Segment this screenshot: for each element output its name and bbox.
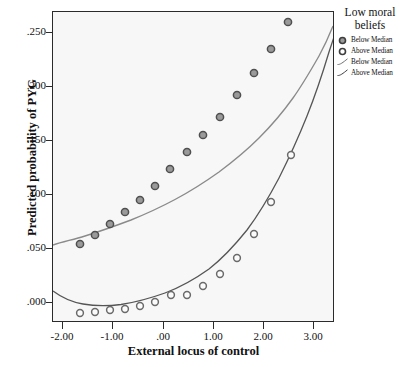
x-axis-title: External locus of control (52, 344, 335, 359)
legend-label: Above Median (351, 69, 393, 77)
x-tick-label: 3.00 (293, 330, 333, 342)
x-tick-mark (62, 322, 63, 329)
y-tick-label: .000 (16, 295, 46, 307)
legend-title: Low moral beliefs (337, 6, 403, 32)
legend-item-above-median-marker[interactable]: Above Median (337, 46, 403, 56)
legend-label: Below Median (351, 36, 392, 44)
x-tick-label: -1.00 (92, 330, 132, 342)
curve-above-median (53, 34, 334, 306)
legend-item-below-median-marker[interactable]: Below Median (337, 35, 403, 45)
legend-label: Below Median (351, 58, 392, 66)
y-tick-label: .050 (16, 241, 46, 253)
curve-line-icon (337, 57, 348, 67)
x-tick-mark (163, 322, 164, 329)
legend-item-below-median-curve[interactable]: Below Median (337, 57, 403, 67)
points-above-median (77, 152, 295, 317)
plot-area (52, 11, 334, 322)
x-tick-mark (213, 322, 214, 329)
y-tick-label: .200 (16, 79, 46, 91)
y-tick-label: .250 (16, 25, 46, 37)
x-tick-mark (112, 322, 113, 329)
x-tick-mark (263, 322, 264, 329)
y-tick-label: .100 (16, 187, 46, 199)
y-tick-label: .150 (16, 133, 46, 145)
legend-item-above-median-curve[interactable]: Above Median (337, 68, 403, 78)
chart-figure: Predicted probability of PYG .250 .200 .… (0, 0, 403, 367)
legend-label: Above Median (351, 47, 393, 55)
x-tick-label: -2.00 (42, 330, 82, 342)
x-tick-label: .00 (143, 330, 183, 342)
plot-canvas (53, 12, 334, 322)
x-tick-mark (313, 322, 314, 329)
curve-below-median (53, 26, 333, 245)
x-tick-label: 1.00 (193, 330, 233, 342)
circle-open-icon (337, 46, 348, 56)
curve-line-icon (337, 68, 348, 78)
chart-legend: Low moral beliefs Below Median Above Med… (337, 6, 403, 78)
x-tick-label: 2.00 (243, 330, 283, 342)
circle-filled-icon (337, 35, 348, 45)
